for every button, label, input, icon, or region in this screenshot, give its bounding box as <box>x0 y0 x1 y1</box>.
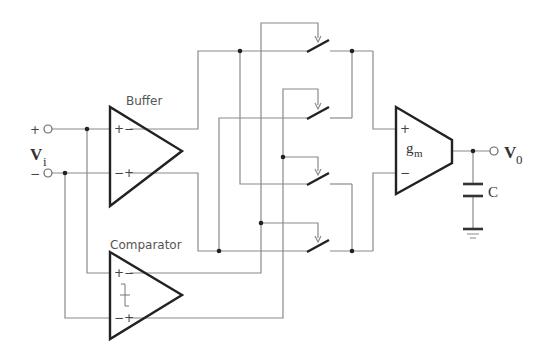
switch-3[interactable] <box>307 169 329 185</box>
switch-2[interactable] <box>307 103 329 119</box>
switch-4[interactable] <box>307 236 329 252</box>
output-terminal: V 0 <box>490 143 523 167</box>
gm-label: g <box>406 140 414 156</box>
wire-control-switch4 <box>261 223 318 238</box>
junction-dot <box>471 149 476 154</box>
junction-dot <box>238 49 243 54</box>
buffer-plus-in: + <box>114 122 124 136</box>
vo-subscript: 0 <box>516 152 523 167</box>
junction-dot <box>259 221 264 226</box>
vi-minus-terminal[interactable] <box>44 169 52 177</box>
junction-dot <box>63 171 68 176</box>
junction-dot <box>350 249 355 254</box>
gm-subscript: m <box>414 147 423 159</box>
wire-to-gm-minus <box>373 173 396 251</box>
junction-dot <box>281 155 286 160</box>
wire-control-switch3 <box>283 157 318 171</box>
comparator-minus-in: − <box>114 311 124 325</box>
comparator-minus-out: − <box>124 266 134 280</box>
wire-buffer-out-upper <box>130 51 307 129</box>
vi-subscript: i <box>43 154 47 169</box>
vo-terminal[interactable] <box>490 147 498 155</box>
junction-dot <box>217 249 222 254</box>
switch-1[interactable] <box>307 36 329 52</box>
ground-icon <box>463 229 483 238</box>
wire-to-gm-plus <box>373 51 396 129</box>
gm-minus-in: − <box>400 166 410 180</box>
capacitor-label: C <box>488 184 498 200</box>
vi-label: V <box>30 145 43 164</box>
vi-plus-sign: + <box>30 123 40 137</box>
comparator-plus-in: + <box>114 266 124 280</box>
buffer-minus-out: − <box>124 122 134 136</box>
wire-vi-plus-to-comparator <box>87 129 110 273</box>
buffer-minus-in: − <box>114 166 124 180</box>
capacitor[interactable]: C <box>463 184 498 200</box>
wire-comparator-out-lower <box>130 89 318 318</box>
gm-trapezoid <box>396 107 452 194</box>
junction-dot <box>85 127 90 132</box>
buffer-plus-out: + <box>124 166 134 180</box>
wire-comparator-out-upper <box>130 23 318 273</box>
circuit-diagram: + − V i <box>0 0 548 359</box>
comparator-label: Comparator <box>110 238 182 252</box>
input-terminals: + − V i <box>30 123 52 181</box>
vi-plus-terminal[interactable] <box>44 125 52 133</box>
comparator-plus-out: + <box>124 311 134 325</box>
comparator[interactable]: + − − + Comparator <box>110 238 182 339</box>
gm-amplifier[interactable]: + − g m <box>396 107 452 194</box>
junction-dot <box>350 49 355 54</box>
vi-minus-sign: − <box>30 167 40 181</box>
buffer-amplifier[interactable]: + − − + Buffer <box>110 94 182 206</box>
buffer-label: Buffer <box>126 94 162 108</box>
gm-plus-in: + <box>400 122 410 136</box>
